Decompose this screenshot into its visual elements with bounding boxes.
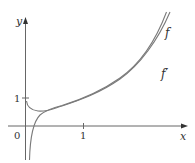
curve-f-prime xyxy=(30,12,167,160)
y-tick-label-1: 1 xyxy=(14,93,20,104)
series-label-f: f xyxy=(164,26,172,40)
curve-f xyxy=(27,12,171,111)
x-axis-arrow-icon xyxy=(181,124,188,129)
y-axis-arrow-icon xyxy=(23,17,28,24)
x-tick-label-1: 1 xyxy=(80,130,86,141)
x-axis-label: x xyxy=(180,130,187,143)
series-label-f-prime: f′ xyxy=(160,67,168,81)
origin-label: 0 xyxy=(14,130,20,141)
chart: y x 0 1 1 f f′ xyxy=(0,0,195,163)
y-axis-label: y xyxy=(15,15,23,28)
